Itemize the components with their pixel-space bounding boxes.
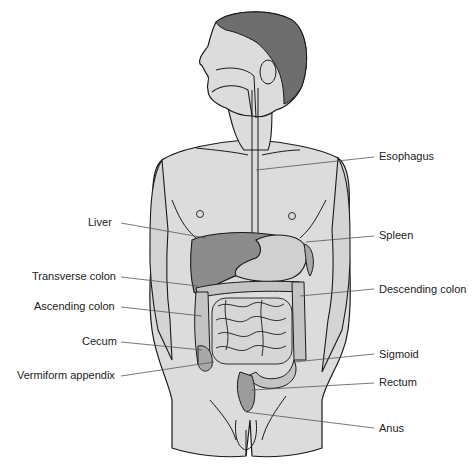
label-vermiform-appendix: Vermiform appendix [17,369,115,382]
label-ascending-colon: Ascending colon [34,300,115,313]
label-transverse-colon: Transverse colon [32,270,116,283]
digestive-system-diagram: Liver Transverse colon Ascending colon C… [0,0,476,468]
label-anus: Anus [379,422,404,435]
ear [260,60,276,84]
label-sigmoid: Sigmoid [379,348,419,361]
label-cecum: Cecum [82,335,117,348]
label-liver: Liver [88,216,112,229]
label-rectum: Rectum [379,376,417,389]
descending-colon [292,282,306,360]
label-esophagus: Esophagus [379,150,434,163]
label-descending-colon: Descending colon [379,283,466,296]
label-spleen: Spleen [379,229,413,242]
small-intestine [212,298,292,364]
